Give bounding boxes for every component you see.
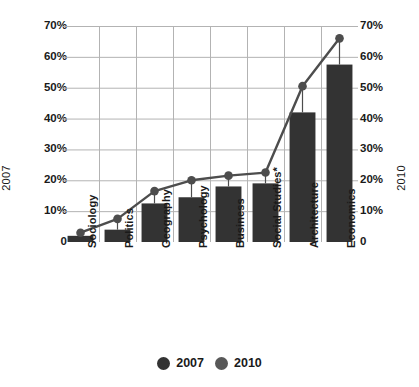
y-tick-label-right: 30% [360, 143, 383, 155]
data-point-marker [76, 228, 85, 237]
circle-marker-icon [215, 357, 228, 370]
data-point-marker [187, 176, 196, 185]
x-axis-label: Sociology [86, 195, 98, 248]
legend-item: 2007 [157, 356, 204, 370]
x-axis-label: Psychology [197, 185, 209, 248]
y-axis-left-title: 2007 [0, 165, 12, 191]
bar-line-combo-chart: 2007 2010 010%20%30%40%50%60%70% 010%20%… [0, 0, 419, 387]
legend-label: 2010 [234, 356, 262, 370]
data-point-marker [335, 34, 344, 43]
data-point-marker [298, 82, 307, 91]
y-axis-right-title: 2010 [395, 165, 407, 191]
y-tick-label-right: 60% [360, 51, 383, 63]
data-point-marker [224, 171, 233, 180]
data-point-marker [113, 215, 122, 224]
data-point-marker [261, 168, 270, 177]
x-axis-label: Social Studies* [271, 167, 283, 248]
y-tick-label-right: 50% [360, 82, 383, 94]
circle-marker-icon [157, 357, 170, 370]
x-axis-label: Business [234, 198, 246, 248]
y-tick-label-right: 70% [360, 20, 383, 32]
x-axis-label: Geography [160, 189, 172, 248]
data-point-marker [150, 187, 159, 196]
y-tick-label-right: 10% [360, 205, 383, 217]
legend-item: 2010 [215, 356, 262, 370]
y-tick-label-right: 40% [360, 113, 383, 125]
x-axis-label: Economics [345, 188, 357, 248]
y-tick-label-right: 0 [360, 236, 366, 248]
legend-label: 2007 [176, 356, 204, 370]
x-axis-label: Politics [123, 208, 135, 248]
x-axis-label: Architecture [308, 182, 320, 248]
chart-legend: 20072010 [0, 356, 419, 370]
y-tick-label-right: 20% [360, 174, 383, 186]
